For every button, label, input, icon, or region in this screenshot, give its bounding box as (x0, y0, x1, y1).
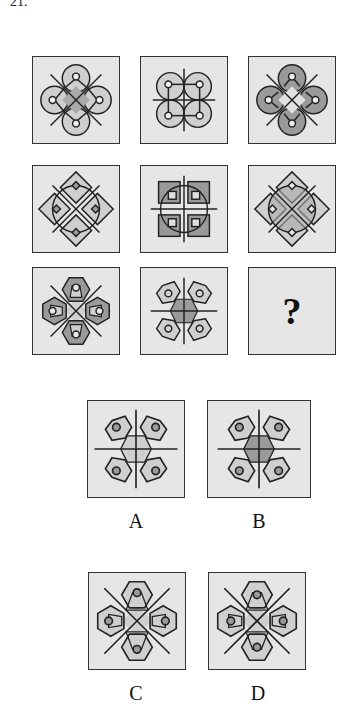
option-b-figure[interactable] (207, 400, 311, 498)
diamonds-x-shaded-figure (249, 166, 335, 252)
grid-cell-r1c1 (32, 56, 120, 144)
diamonds-x-figure (33, 166, 119, 252)
grid-cell-r3c3-unknown: ? (248, 267, 336, 355)
grid-cell-r1c2 (140, 56, 228, 144)
option-a-label[interactable]: A (116, 510, 156, 533)
grid-cell-r2c3 (248, 165, 336, 253)
grid-cell-r2c1 (32, 165, 120, 253)
dark-circles-x-figure (249, 57, 335, 143)
grid-cell-r3c1 (32, 267, 120, 355)
circles-x-figure (33, 57, 119, 143)
circles-square-figure (141, 57, 227, 143)
hexagons-x-figure (33, 268, 119, 354)
hexagons-plus-dark-figure (208, 401, 310, 497)
hexagons-plus-light-figure (88, 401, 184, 497)
question-mark: ? (249, 268, 335, 354)
option-d-figure[interactable] (208, 572, 306, 670)
option-c-figure[interactable] (88, 572, 186, 670)
option-b-label[interactable]: B (239, 510, 279, 533)
hexagons-x-light-figure (89, 573, 185, 669)
question-number: 21. (10, 0, 28, 10)
option-d-label[interactable]: D (238, 682, 278, 705)
grid-cell-r1c3 (248, 56, 336, 144)
hexagons-plus-figure (141, 268, 227, 354)
option-c-label[interactable]: C (116, 682, 156, 705)
option-a-figure[interactable] (87, 400, 185, 498)
grid-cell-r2c2 (140, 165, 228, 253)
squares-circle-figure (141, 166, 227, 252)
hexagons-x-light-figure-d (209, 573, 305, 669)
grid-cell-r3c2 (140, 267, 228, 355)
